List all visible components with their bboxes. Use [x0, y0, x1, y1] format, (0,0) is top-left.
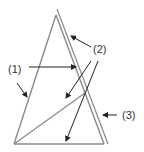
arrow-2c	[66, 61, 98, 141]
label-3: (3)	[122, 110, 135, 121]
triangle-diagram	[0, 0, 144, 152]
diagonal-line	[14, 93, 85, 144]
label-2: (2)	[93, 44, 106, 55]
arrow-1b	[17, 83, 27, 97]
arrow-2a	[71, 36, 91, 47]
label-1: (1)	[8, 64, 21, 75]
outer-edge-line	[57, 9, 108, 144]
